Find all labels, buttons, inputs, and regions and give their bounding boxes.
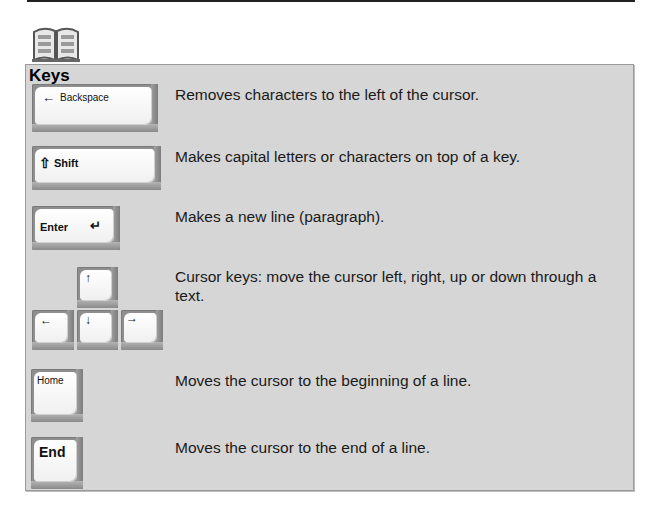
shift-description: Makes capital letters or characters on t… bbox=[175, 147, 615, 166]
down-arrow-icon: ↓ bbox=[85, 313, 91, 327]
backspace-description: Removes characters to the left of the cu… bbox=[175, 85, 615, 104]
home-description: Moves the cursor to the beginning of a l… bbox=[175, 371, 615, 390]
section-title: Keys bbox=[29, 66, 70, 86]
top-rule bbox=[27, 0, 635, 2]
down-arrow-key: ↓ bbox=[77, 310, 118, 350]
enter-label: Enter bbox=[40, 221, 68, 233]
book-icon bbox=[32, 26, 80, 62]
shift-arrow-icon: ⇧ bbox=[39, 155, 51, 171]
backspace-label: Backspace bbox=[60, 92, 109, 103]
home-key: Home bbox=[31, 369, 83, 422]
left-arrow-icon: ← bbox=[40, 313, 52, 327]
shift-label: Shift bbox=[54, 157, 78, 169]
cursor-keys-description: Cursor keys: move the cursor left, right… bbox=[175, 267, 615, 305]
backspace-arrow-icon: ← bbox=[42, 90, 55, 105]
right-arrow-icon: → bbox=[126, 311, 138, 325]
right-arrow-key: → bbox=[121, 310, 163, 350]
shift-key: ⇧ Shift bbox=[32, 146, 161, 190]
enter-key: Enter ↵ bbox=[32, 206, 120, 250]
up-arrow-key: ↑ bbox=[77, 267, 118, 308]
home-label: Home bbox=[37, 375, 64, 386]
backspace-key: ← Backspace bbox=[32, 84, 158, 132]
end-description: Moves the cursor to the end of a line. bbox=[175, 438, 615, 457]
keys-panel: Keys ← Backspace Removes characters to t… bbox=[25, 64, 634, 491]
left-arrow-key: ← bbox=[32, 310, 74, 350]
enter-description: Makes a new line (paragraph). bbox=[175, 207, 615, 226]
up-arrow-icon: ↑ bbox=[85, 271, 91, 285]
end-key: End bbox=[31, 437, 83, 489]
enter-arrow-icon: ↵ bbox=[90, 218, 101, 233]
end-label: End bbox=[39, 444, 65, 460]
